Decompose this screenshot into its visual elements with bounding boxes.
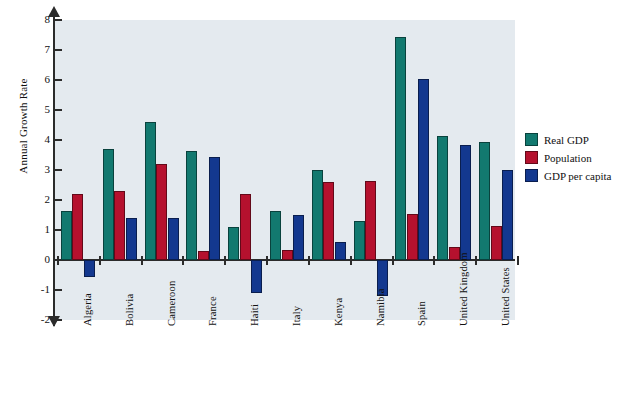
bar-chart: Annual Growth Rate 876543210-1-2 Algeria… xyxy=(0,0,628,405)
bar-algeria-population xyxy=(72,194,83,260)
bar-haiti-population xyxy=(240,194,251,260)
bar-italy-real-gdp xyxy=(270,211,281,261)
x-tick xyxy=(57,256,59,265)
bar-france-real-gdp xyxy=(186,151,197,261)
y-tick-label: 0 xyxy=(28,254,50,265)
bar-united-kingdom-real-gdp xyxy=(437,136,448,261)
bar-bolivia-real-gdp xyxy=(103,149,114,260)
bar-italy-gdp-per-capita xyxy=(293,215,304,260)
bar-united-kingdom-gdp-per-capita xyxy=(460,145,471,261)
y-tick xyxy=(55,199,62,201)
x-axis-label-haiti: Haiti xyxy=(249,304,260,326)
x-axis-label-namibia: Namibia xyxy=(375,288,386,326)
x-axis-label-spain: Spain xyxy=(416,301,427,326)
x-axis-label-united-kingdom: United Kingdom xyxy=(458,252,469,326)
bar-kenya-gdp-per-capita xyxy=(335,242,346,260)
x-axis-label-bolivia: Bolivia xyxy=(124,294,135,326)
x-tick xyxy=(141,256,143,265)
legend-label: Real GDP xyxy=(544,134,589,146)
x-tick xyxy=(392,256,394,265)
y-tick xyxy=(55,319,62,321)
y-tick-label: 1 xyxy=(28,224,50,235)
x-axis-label-algeria: Algeria xyxy=(82,293,93,326)
x-tick xyxy=(433,256,435,265)
x-tick xyxy=(99,256,101,265)
x-axis-label-italy: Italy xyxy=(291,306,302,326)
bar-france-gdp-per-capita xyxy=(209,157,220,261)
bar-spain-real-gdp xyxy=(395,37,406,261)
bar-bolivia-population xyxy=(114,191,125,260)
x-tick xyxy=(517,256,519,265)
y-tick-label: 8 xyxy=(28,14,50,25)
y-tick-label: 6 xyxy=(28,74,50,85)
bar-spain-gdp-per-capita xyxy=(418,79,429,261)
legend-label: Population xyxy=(544,152,592,164)
y-tick xyxy=(55,79,62,81)
bar-kenya-population xyxy=(323,182,334,260)
y-tick xyxy=(55,19,62,21)
bar-cameroon-gdp-per-capita xyxy=(168,218,179,260)
legend-label: GDP per capita xyxy=(544,170,611,182)
bar-haiti-real-gdp xyxy=(228,227,239,260)
bar-united-states-population xyxy=(491,226,502,261)
bar-namibia-real-gdp xyxy=(354,221,365,260)
bar-bolivia-gdp-per-capita xyxy=(126,218,137,260)
y-tick-label: -2 xyxy=(28,314,50,325)
bar-united-states-gdp-per-capita xyxy=(502,170,513,260)
x-axis-label-united-states: United States xyxy=(500,267,511,326)
x-axis-label-cameroon: Cameroon xyxy=(166,281,177,326)
y-tick xyxy=(55,109,62,111)
legend-item-real-gdp[interactable]: Real GDP xyxy=(525,133,611,146)
bar-united-states-real-gdp xyxy=(479,142,490,261)
bar-haiti-gdp-per-capita xyxy=(251,260,262,293)
y-tick-label: 4 xyxy=(28,134,50,145)
y-tick-label: 5 xyxy=(28,104,50,115)
x-tick xyxy=(182,256,184,265)
y-tick-label: 7 xyxy=(28,44,50,55)
y-tick-label: -1 xyxy=(28,284,50,295)
bar-italy-population xyxy=(282,250,293,261)
y-tick xyxy=(55,139,62,141)
y-tick xyxy=(55,49,62,51)
legend-item-gdp-per-capita[interactable]: GDP per capita xyxy=(525,169,611,182)
y-tick-label: 3 xyxy=(28,164,50,175)
legend-item-population[interactable]: Population xyxy=(525,151,611,164)
bar-france-population xyxy=(198,251,209,260)
legend: Real GDPPopulationGDP per capita xyxy=(525,133,611,187)
bar-algeria-real-gdp xyxy=(61,211,72,261)
y-tick-label: 2 xyxy=(28,194,50,205)
bar-spain-population xyxy=(407,214,418,261)
bar-algeria-gdp-per-capita xyxy=(84,260,95,277)
bar-cameroon-population xyxy=(156,164,167,260)
bar-namibia-population xyxy=(365,181,376,261)
legend-swatch-icon xyxy=(525,151,538,164)
y-tick xyxy=(55,289,62,291)
x-tick xyxy=(350,256,352,265)
legend-swatch-icon xyxy=(525,169,538,182)
x-axis-label-france: France xyxy=(207,296,218,326)
x-tick xyxy=(475,256,477,265)
x-axis-label-kenya: Kenya xyxy=(333,298,344,326)
x-tick xyxy=(266,256,268,265)
bar-cameroon-real-gdp xyxy=(145,122,156,260)
x-tick xyxy=(308,256,310,265)
legend-swatch-icon xyxy=(525,133,538,146)
x-tick xyxy=(224,256,226,265)
y-tick xyxy=(55,169,62,171)
bar-kenya-real-gdp xyxy=(312,170,323,260)
